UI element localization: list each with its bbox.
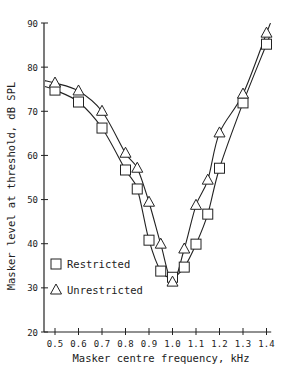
x-tick-label: 0.5 xyxy=(47,339,63,349)
square-marker xyxy=(97,123,107,133)
triangle-marker xyxy=(202,174,213,184)
triangle-marker xyxy=(132,162,143,172)
square-marker xyxy=(132,184,142,194)
triangle-marker xyxy=(191,199,202,209)
y-tick-label: 70 xyxy=(27,107,38,117)
legend-triangle-icon xyxy=(51,284,62,294)
square-marker xyxy=(156,266,166,276)
square-marker xyxy=(191,239,201,249)
x-tick-label: 1.1 xyxy=(188,339,204,349)
y-tick-label: 50 xyxy=(27,195,38,205)
square-marker xyxy=(238,98,248,108)
square-marker xyxy=(179,262,189,272)
legend-label: Unrestricted xyxy=(67,284,143,296)
legend: RestrictedUnrestricted xyxy=(51,258,143,296)
triangle-marker xyxy=(179,243,190,253)
square-marker xyxy=(203,209,213,219)
x-tick-label: 0.6 xyxy=(70,339,86,349)
triangle-marker xyxy=(261,27,272,37)
x-axis-label: Masker centre frequency, kHz xyxy=(72,352,249,364)
square-marker xyxy=(144,235,154,245)
square-marker xyxy=(262,39,272,49)
y-tick-label: 90 xyxy=(27,19,38,29)
chart-container: 20304050607080900.50.60.70.80.91.01.11.2… xyxy=(0,0,288,385)
y-tick-label: 20 xyxy=(27,328,38,338)
triangle-marker xyxy=(120,147,131,157)
legend-label: Restricted xyxy=(67,258,130,270)
y-tick-label: 80 xyxy=(27,63,38,73)
square-marker xyxy=(121,165,131,175)
x-tick-label: 1.4 xyxy=(258,339,274,349)
x-tick-label: 0.7 xyxy=(94,339,110,349)
data-markers xyxy=(50,27,273,286)
y-tick-label: 30 xyxy=(27,283,38,293)
x-tick-label: 1.3 xyxy=(235,339,251,349)
triangle-marker xyxy=(73,85,84,95)
axes: 20304050607080900.50.60.70.80.91.01.11.2… xyxy=(27,19,274,350)
x-tick-label: 0.8 xyxy=(117,339,133,349)
triangle-marker xyxy=(214,127,225,137)
chart-svg: 20304050607080900.50.60.70.80.91.01.11.2… xyxy=(0,0,288,385)
square-marker xyxy=(215,163,225,173)
square-marker xyxy=(74,97,84,107)
x-tick-label: 1.0 xyxy=(164,339,180,349)
x-tick-label: 1.2 xyxy=(211,339,227,349)
triangle-marker xyxy=(155,238,166,248)
restricted-curve xyxy=(45,34,271,277)
y-axis-label: Masker level at threshold, dB SPL xyxy=(5,82,17,291)
y-tick-label: 40 xyxy=(27,239,38,249)
y-tick-label: 60 xyxy=(27,151,38,161)
triangle-marker xyxy=(144,196,155,206)
legend-square-icon xyxy=(51,259,61,269)
x-tick-label: 0.9 xyxy=(141,339,157,349)
